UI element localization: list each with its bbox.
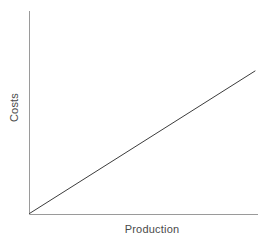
chart-container: Costs Production (0, 0, 276, 244)
cost-line-series (30, 71, 256, 214)
x-axis-label: Production (0, 224, 276, 235)
data-series-group (30, 71, 256, 214)
y-axis-label-wrapper: Costs (0, 0, 30, 214)
chart-plot-area (0, 0, 276, 244)
axes-group (30, 11, 259, 215)
y-axis-label: Costs (10, 92, 21, 121)
